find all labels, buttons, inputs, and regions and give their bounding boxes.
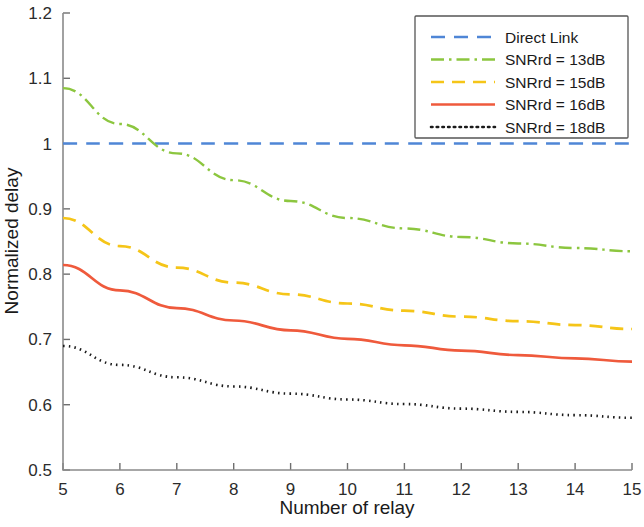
- x-axis-title: Number of relay: [279, 497, 415, 518]
- chart-legend: Direct LinkSNRrd = 13dBSNRrd = 15dBSNRrd…: [415, 16, 628, 138]
- y-axis-tick-labels: 0.50.60.70.80.911.11.2: [28, 4, 52, 480]
- x-tick-label: 12: [452, 480, 471, 499]
- legend-label-3: SNRrd = 16dB: [505, 96, 605, 113]
- y-tick-label: 0.5: [28, 461, 52, 480]
- x-tick-label: 8: [229, 480, 238, 499]
- y-tick-label: 0.6: [28, 396, 52, 415]
- normalized-delay-line-chart: 0.50.60.70.80.911.11.2 56789101112131415…: [0, 0, 644, 527]
- x-tick-label: 6: [115, 480, 124, 499]
- y-axis-title: Normalized delay: [1, 167, 22, 314]
- x-tick-label: 7: [172, 480, 181, 499]
- y-tick-label: 0.8: [28, 265, 52, 284]
- y-tick-label: 1.2: [28, 4, 52, 23]
- legend-label-0: Direct Link: [505, 29, 578, 46]
- x-tick-label: 14: [566, 480, 585, 499]
- series-line-2: [63, 218, 632, 329]
- legend-label-1: SNRrd = 13dB: [505, 51, 605, 68]
- y-tick-label: 0.7: [28, 330, 52, 349]
- legend-label-2: SNRrd = 15dB: [505, 74, 605, 91]
- y-tick-label: 1.1: [28, 69, 52, 88]
- series-line-3: [63, 265, 632, 362]
- y-tick-label: 0.9: [28, 200, 52, 219]
- x-tick-label: 5: [58, 480, 67, 499]
- x-tick-label: 13: [509, 480, 528, 499]
- x-tick-label: 15: [623, 480, 642, 499]
- chart-figure: 0.50.60.70.80.911.11.2 56789101112131415…: [0, 0, 644, 527]
- y-tick-label: 1: [43, 135, 52, 154]
- legend-label-4: SNRrd = 18dB: [505, 119, 605, 136]
